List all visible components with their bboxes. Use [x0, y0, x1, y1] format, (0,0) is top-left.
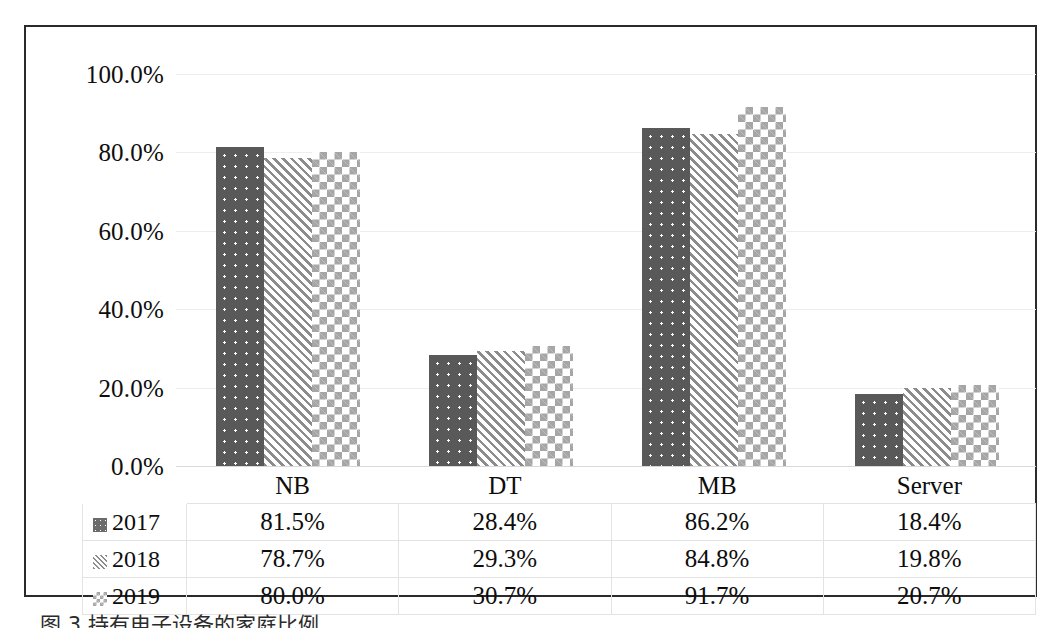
table-cell: 29.3% [399, 541, 611, 578]
table-cell: 78.7% [187, 541, 399, 578]
plot-area [176, 74, 1036, 466]
gridline [176, 74, 1036, 75]
bar-2018-dt [477, 351, 525, 466]
bar-2019-nb [312, 152, 360, 466]
bar-2019-server [951, 385, 999, 466]
y-tick-label: 20.0% [98, 375, 164, 400]
table-row: 2017 81.5% 28.4% 86.2% 18.4% [83, 504, 1036, 541]
table-row: 2019 80.0% 30.7% 91.7% 20.7% [83, 578, 1036, 615]
y-tick-label: 40.0% [98, 297, 164, 322]
bar-2019-dt [525, 346, 573, 466]
y-tick-label: 100.0% [86, 62, 164, 87]
bar-2019-mb [738, 107, 786, 466]
y-tick-label: 80.0% [98, 140, 164, 165]
table-cell: 19.8% [823, 541, 1035, 578]
table-header-row: NB DT MB Server [83, 469, 1036, 504]
y-tick-label: 60.0% [98, 218, 164, 243]
table-cell: 80.0% [187, 578, 399, 615]
bar-2017-mb [642, 128, 690, 466]
bar-2017-dt [429, 355, 477, 466]
legend-entry-2018: 2018 [83, 541, 187, 578]
x-axis-line [176, 466, 1036, 467]
category-header-mb: MB [611, 469, 823, 504]
table-cell: 18.4% [823, 504, 1035, 541]
table-cell: 84.8% [611, 541, 823, 578]
figure-caption: 图 3 持有电子设备的家庭比例 [40, 612, 1020, 628]
category-header-nb: NB [187, 469, 399, 504]
chart-screenshot: 100.0% 80.0% 60.0% 40.0% 20.0% 0.0% [0, 0, 1059, 628]
legend-entry-2017: 2017 [83, 504, 187, 541]
legend-swatch-icon [93, 555, 107, 569]
legend-swatch-icon [93, 518, 107, 532]
chart-frame: 100.0% 80.0% 60.0% 40.0% 20.0% 0.0% [24, 25, 1037, 597]
table-cell: 91.7% [611, 578, 823, 615]
table-cell: 28.4% [399, 504, 611, 541]
data-table: NB DT MB Server 2017 81.5% 28.4% 86.2% 1… [82, 468, 1036, 615]
legend-label: 2019 [112, 583, 160, 609]
bar-2018-nb [264, 158, 312, 467]
table-cell: 81.5% [187, 504, 399, 541]
category-header-server: Server [823, 469, 1035, 504]
y-axis-labels: 100.0% 80.0% 60.0% 40.0% 20.0% 0.0% [52, 74, 172, 466]
table-cell: 86.2% [611, 504, 823, 541]
bar-2017-server [855, 394, 903, 466]
bar-2017-nb [216, 147, 264, 466]
legend-entry-2019: 2019 [83, 578, 187, 615]
bar-2018-server [903, 388, 951, 466]
legend-swatch-icon [93, 592, 107, 606]
table-cell: 30.7% [399, 578, 611, 615]
table-row: 2018 78.7% 29.3% 84.8% 19.8% [83, 541, 1036, 578]
bar-2018-mb [690, 134, 738, 466]
legend-label: 2018 [112, 546, 160, 572]
gridline [176, 152, 1036, 153]
table-cell: 20.7% [823, 578, 1035, 615]
category-header-dt: DT [399, 469, 611, 504]
legend-label: 2017 [112, 509, 160, 535]
table-corner-cell [83, 469, 187, 504]
